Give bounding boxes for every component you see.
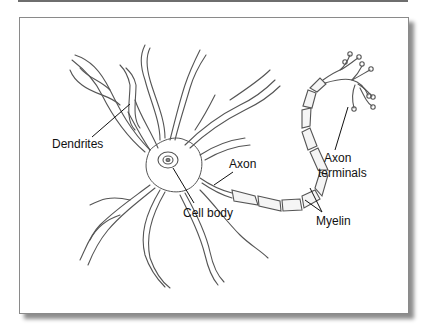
neuron-diagram [0, 0, 428, 329]
axon-terminals-shape [323, 52, 375, 111]
cell-body-leader [173, 168, 194, 203]
dendrites-leader [92, 104, 130, 137]
label-myelin: Myelin [316, 214, 351, 228]
label-axon-terminals-line1: Axon [324, 151, 351, 165]
label-axon: Axon [229, 157, 256, 171]
label-axon-terminals-line2: terminals [318, 166, 367, 180]
label-cell-body: Cell body [183, 206, 233, 220]
label-dendrites: Dendrites [52, 137, 103, 151]
axon-leader [214, 172, 233, 185]
axon-terminals-leader [335, 107, 348, 150]
